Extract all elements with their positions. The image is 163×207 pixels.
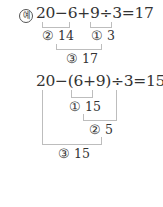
bracket-line: [71, 97, 93, 98]
step-1-result: ① 3: [91, 30, 115, 43]
step-marker: ②: [89, 122, 101, 137]
bracket-line: [101, 137, 102, 144]
step-marker: ②: [42, 28, 54, 43]
bracket-line: [42, 90, 43, 144]
step-marker: ③: [66, 51, 78, 66]
step-value: 3: [107, 28, 115, 43]
bracket-line: [83, 120, 117, 121]
step-marker: ③: [58, 146, 70, 161]
step-marker: ①: [69, 99, 81, 114]
step-value: 14: [58, 28, 74, 43]
bracket-line: [42, 144, 102, 145]
expression-1: 20−6+9÷3=17: [36, 6, 154, 22]
step-3-result: ③ 15: [58, 148, 90, 161]
step-value: 17: [82, 51, 98, 66]
step-marker: ①: [91, 28, 103, 43]
step-2-result: ② 5: [89, 124, 113, 137]
expression-2: 20−(6+9)÷3=15: [36, 74, 163, 90]
example-label-icon: 예: [19, 9, 33, 23]
step-1-result: ① 15: [69, 101, 101, 114]
bracket-line: [56, 49, 102, 50]
step-2-result: ② 14: [42, 30, 74, 43]
bracket-line: [116, 90, 117, 120]
step-value: 5: [105, 122, 113, 137]
step-value: 15: [85, 99, 101, 114]
step-value: 15: [74, 146, 90, 161]
step-3-result: ③ 17: [66, 53, 98, 66]
